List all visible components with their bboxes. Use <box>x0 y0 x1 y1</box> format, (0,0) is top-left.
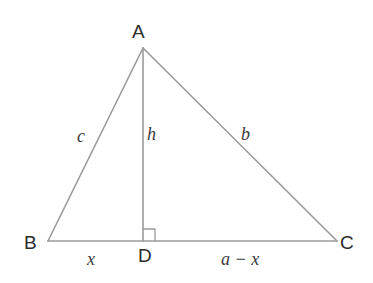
vertex-label-c: C <box>340 233 354 252</box>
segment-ac-side-b <box>143 48 337 241</box>
side-length-label-c: c <box>77 127 85 145</box>
side-length-label-b: b <box>241 125 250 143</box>
geometry-diagram: A B C D c h b x a − x <box>0 0 373 283</box>
altitude-length-label-h: h <box>147 125 156 143</box>
vertex-label-d: D <box>138 246 152 265</box>
right-angle-marker-icon <box>143 229 155 241</box>
segment-ab-side-c <box>48 48 143 241</box>
triangle-figure <box>0 0 373 283</box>
segment-length-label-a-minus-x: a − x <box>221 250 259 268</box>
segment-length-label-x: x <box>87 250 95 268</box>
vertex-label-b: B <box>24 233 37 252</box>
vertex-label-a: A <box>132 22 145 41</box>
